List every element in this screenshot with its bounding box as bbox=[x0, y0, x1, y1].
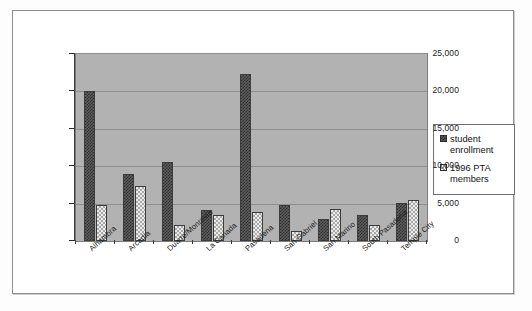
x-axis-tick-mark bbox=[114, 240, 115, 244]
y-axis-tick-mark bbox=[69, 90, 74, 91]
legend-label-line2: members bbox=[450, 174, 489, 184]
x-axis-tick-mark bbox=[426, 240, 427, 244]
y-axis bbox=[13, 41, 75, 251]
bar-group bbox=[162, 54, 185, 241]
bar-group bbox=[357, 54, 380, 241]
bar-group bbox=[318, 54, 341, 241]
bar[interactable] bbox=[123, 174, 134, 241]
bar[interactable] bbox=[240, 74, 251, 241]
bar-group bbox=[279, 54, 302, 241]
bar[interactable] bbox=[84, 91, 95, 241]
x-axis-tick-mark bbox=[153, 240, 154, 244]
y-axis-tick-label: 0 bbox=[454, 236, 459, 245]
y-axis-tick-label: 25,000 bbox=[432, 49, 459, 58]
legend-swatch-student-enrollment-icon bbox=[440, 135, 447, 142]
y-axis-tick-label: 10,000 bbox=[432, 161, 459, 170]
bar[interactable] bbox=[357, 215, 368, 241]
y-axis-tick-mark bbox=[69, 128, 74, 129]
chart-frame: AlhambraArcadiaDuarte/MonroviaLa CanadaP… bbox=[12, 10, 514, 294]
y-axis-tick-mark bbox=[69, 240, 74, 241]
legend-item-student-enrollment[interactable]: student enrollment bbox=[440, 134, 493, 155]
plot-area bbox=[75, 53, 428, 242]
bar[interactable] bbox=[162, 162, 173, 241]
x-axis-tick-mark bbox=[387, 240, 388, 244]
bar[interactable] bbox=[279, 205, 290, 241]
y-axis-tick-label: 15,000 bbox=[432, 124, 459, 133]
x-axis-tick-mark bbox=[309, 240, 310, 244]
figure: AlhambraArcadiaDuarte/MonroviaLa CanadaP… bbox=[0, 0, 532, 311]
bar-group bbox=[84, 54, 107, 241]
y-axis-tick-mark bbox=[69, 165, 74, 166]
y-axis-tick-mark bbox=[69, 203, 74, 204]
bar-group bbox=[123, 54, 146, 241]
bar-group bbox=[240, 54, 263, 241]
legend-label-line1: student bbox=[450, 134, 481, 144]
legend-label-student-enrollment: student enrollment bbox=[450, 134, 493, 155]
x-axis-tick-mark bbox=[270, 240, 271, 244]
y-axis-tick-label: 5,000 bbox=[437, 199, 459, 208]
y-axis-tick-label: 20,000 bbox=[432, 86, 459, 95]
x-axis-tick-mark bbox=[75, 240, 76, 244]
bar[interactable] bbox=[318, 219, 329, 241]
y-axis-tick-mark bbox=[69, 53, 74, 54]
legend-label-line2: enrollment bbox=[450, 145, 493, 155]
x-axis-tick-mark bbox=[231, 240, 232, 244]
x-axis-tick-mark bbox=[348, 240, 349, 244]
x-axis-tick-mark bbox=[192, 240, 193, 244]
